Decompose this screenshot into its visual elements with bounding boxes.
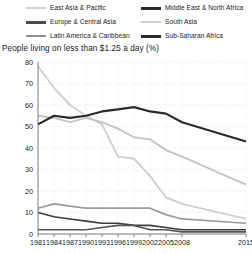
- legend-label: South Asia: [165, 16, 197, 28]
- legend-swatch-icon: [26, 35, 46, 37]
- x-tick-label: 1981: [30, 238, 46, 247]
- x-tick-label: 1993: [94, 238, 110, 247]
- data-series-group: [38, 66, 246, 232]
- x-tick-label: 2005: [158, 238, 174, 247]
- y-tick-label: 20: [25, 187, 33, 196]
- x-tick-label: 2002: [142, 238, 158, 247]
- legend-label: Latin America & Caribbean: [50, 30, 130, 42]
- legend-row: Latin America & Caribbean Sub-Saharan Af…: [0, 30, 252, 42]
- y-tick-label: 30: [25, 165, 33, 174]
- legend-label: Middle East & North Africa: [165, 2, 243, 14]
- legend-label: East Asia & Pacific: [50, 2, 106, 14]
- y-tick-label: 70: [25, 79, 33, 88]
- poverty-line-chart: East Asia & Pacific Middle East & North …: [0, 0, 252, 254]
- series-line-europe-central-asia: [38, 225, 246, 231]
- y-tick-label: 60: [25, 101, 33, 110]
- x-tick-label: 2015: [238, 238, 252, 247]
- legend-item-south-asia: South Asia: [141, 16, 197, 28]
- legend-label: Sub-Saharan Africa: [165, 30, 223, 42]
- legend-swatch-icon: [26, 7, 46, 9]
- legend-item-sub-saharan-africa: Sub-Saharan Africa: [141, 30, 223, 42]
- legend-item-europe-central-asia: Europe & Central Asia: [26, 16, 116, 28]
- legend-swatch-icon: [141, 21, 161, 23]
- legend-row: East Asia & Pacific Middle East & North …: [0, 2, 252, 14]
- x-tick-label: 1996: [110, 238, 126, 247]
- x-tick-label: 1990: [78, 238, 94, 247]
- x-tick-label: 1987: [62, 238, 78, 247]
- x-tick-label: 2008: [174, 238, 190, 247]
- plot-area: 80706050403020100 1981198419871990199319…: [0, 56, 252, 254]
- series-line-latin-america-caribbean: [38, 204, 246, 223]
- x-tick-label: 1999: [126, 238, 142, 247]
- x-axis-labels: 1981198419871990199319961999200220052008…: [30, 238, 252, 247]
- legend-item-middle-east-north-africa: Middle East & North Africa: [141, 2, 243, 14]
- chart-title: People living on less than $1.25 a day (…: [2, 44, 159, 53]
- y-tick-label: 10: [25, 208, 33, 217]
- legend-swatch-icon: [141, 35, 161, 38]
- y-tick-label: 40: [25, 144, 33, 153]
- plot-svg: 80706050403020100 1981198419871990199319…: [0, 56, 252, 254]
- legend-label: Europe & Central Asia: [50, 16, 116, 28]
- legend-item-east-asia-pacific: East Asia & Pacific: [26, 2, 106, 14]
- x-tick-label: 1984: [46, 238, 62, 247]
- series-line-sub-saharan-africa: [38, 107, 246, 141]
- legend-swatch-icon: [26, 21, 46, 24]
- series-line-south-asia: [38, 116, 246, 185]
- legend-row: Europe & Central Asia South Asia: [0, 16, 252, 28]
- y-tick-label: 50: [25, 122, 33, 131]
- legend-swatch-icon: [141, 7, 161, 10]
- chart-legend: East Asia & Pacific Middle East & North …: [0, 2, 252, 42]
- series-line-east-asia-pacific: [38, 66, 246, 219]
- y-tick-label: 80: [25, 58, 33, 67]
- legend-item-latin-america-caribbean: Latin America & Caribbean: [26, 30, 130, 42]
- y-axis-labels: 80706050403020100: [25, 58, 33, 239]
